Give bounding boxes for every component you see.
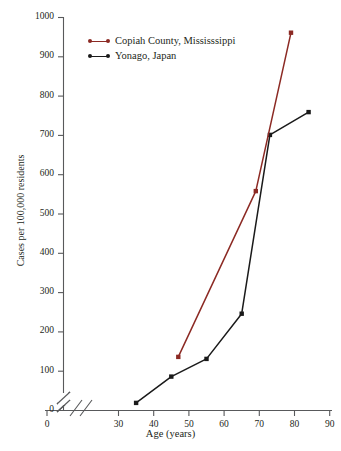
legend-item-copiah-county: Copiah County, Mississsippi: [88, 34, 235, 48]
legend-label-yonago-japan: Yonago, Japan: [115, 51, 176, 62]
legend-marker-yonago-japan: [88, 51, 110, 61]
x-tick-marks: [47, 411, 330, 417]
y-tick-label-100: 100: [20, 366, 54, 376]
series-points-yonago-japan: [134, 110, 311, 405]
y-tick-label-0: 0: [20, 405, 54, 415]
y-tick-label-1000: 1000: [20, 12, 54, 22]
legend-item-yonago-japan: Yonago, Japan: [88, 49, 235, 63]
series-points-copiah-county: [176, 31, 293, 360]
y-tick-label-800: 800: [20, 91, 54, 101]
series-line-yonago-japan: [136, 112, 309, 403]
y-tick-marks: [58, 18, 64, 372]
chart-legend: Copiah County, Mississsippi Yonago, Japa…: [88, 34, 235, 63]
x-axis-title: Age (years): [0, 428, 341, 439]
y-tick-label-900: 900: [20, 51, 54, 61]
legend-label-copiah-county: Copiah County, Mississsippi: [115, 36, 235, 47]
series-line-copiah-county: [178, 33, 291, 357]
y-tick-label-200: 200: [20, 326, 54, 336]
legend-marker-copiah-county: [88, 36, 110, 46]
chart-plot-area: [0, 0, 341, 451]
chart-container: 1000 900 800 700 600 500 400 300 200 100…: [0, 0, 341, 451]
x-axis-break-icon: [70, 400, 92, 416]
y-axis-title: Cases per 100,000 residents: [15, 131, 26, 291]
